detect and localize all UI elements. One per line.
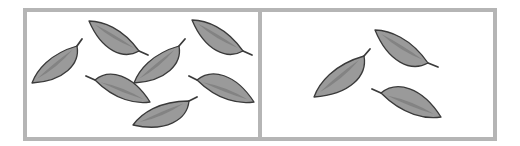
leaf-icon <box>189 74 254 103</box>
right-panel-frame <box>260 10 495 139</box>
leaf-icon <box>32 39 82 83</box>
leaf-icon <box>192 20 252 55</box>
leaf-icon <box>314 49 370 97</box>
leaf-icon <box>89 21 148 55</box>
leaf-comparison-illustration <box>0 0 520 146</box>
leaf-icon <box>372 87 441 118</box>
leaf-icon <box>375 30 438 67</box>
illustration-canvas <box>0 0 520 146</box>
leaves-layer <box>32 20 441 127</box>
leaf-icon <box>134 39 185 83</box>
